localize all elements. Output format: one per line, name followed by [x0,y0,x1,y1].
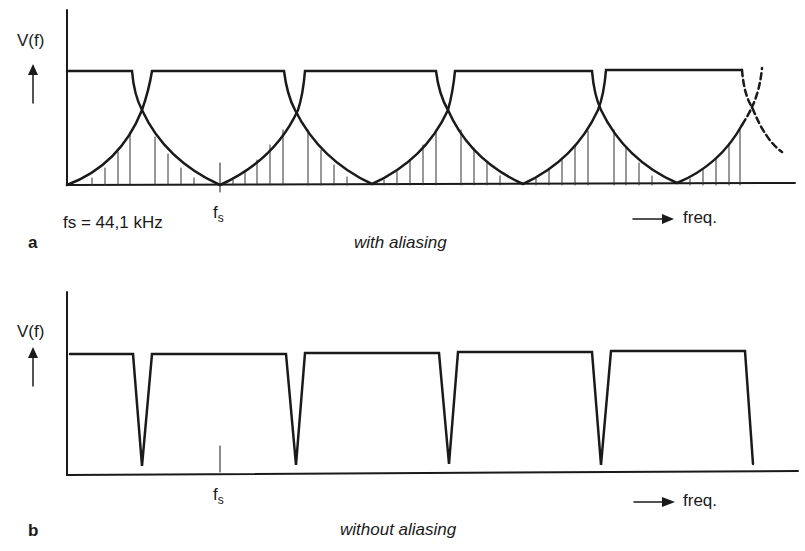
panel-b-passband [70,351,753,466]
panel-b-fs-label: fs [213,485,224,507]
panel-a-x-label: freq. [683,208,717,228]
panel-a-x-axis [67,183,795,185]
panel-a-annotation: fs = 44,1 kHz [63,213,163,233]
panel-b-y-label: V(f) [17,322,44,342]
panel-b-letter: b [28,521,38,541]
panel-b-x-label: freq. [683,491,717,511]
panel-b-x-axis [67,471,798,475]
panel-a-y-label: V(f) [17,31,44,51]
panel-b-caption: without aliasing [340,520,456,540]
panel-a-caption: with aliasing [354,233,447,253]
panel-a-plot [0,0,805,551]
panel-a-letter: a [28,233,37,253]
panel-a-fs-label: fs [213,203,224,225]
